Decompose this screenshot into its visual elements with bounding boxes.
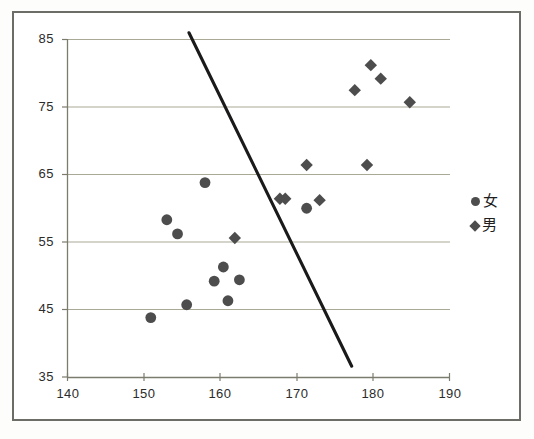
data-point-男-6 — [361, 159, 373, 171]
y-tick-label-65: 65 — [24, 166, 54, 181]
data-point-男-5 — [349, 84, 361, 96]
data-point-女-1 — [161, 214, 172, 225]
y-tick-label-85: 85 — [24, 31, 54, 46]
data-point-女-9 — [301, 203, 312, 214]
y-tick-label-35: 35 — [24, 369, 54, 384]
y-tick-label-55: 55 — [24, 234, 54, 249]
data-point-男-4 — [313, 194, 325, 206]
y-tick-label-45: 45 — [24, 301, 54, 316]
data-point-男-3 — [300, 159, 312, 171]
data-point-女-2 — [172, 229, 183, 240]
legend-item-female[interactable]: 女 — [471, 194, 498, 209]
data-point-男-8 — [375, 72, 387, 84]
data-markers — [145, 59, 416, 323]
trend-line — [189, 33, 352, 366]
x-tick-label-160: 160 — [200, 386, 240, 401]
scatter-plot-canvas — [0, 0, 534, 439]
x-tick-label-170: 170 — [277, 386, 317, 401]
x-tick-label-150: 150 — [124, 386, 164, 401]
data-point-女-0 — [145, 312, 156, 323]
data-point-女-8 — [234, 274, 245, 285]
data-point-女-4 — [200, 177, 211, 188]
data-point-女-5 — [209, 276, 220, 287]
data-point-女-7 — [223, 295, 234, 306]
x-tick-label-140: 140 — [48, 386, 88, 401]
legend-circle-marker-icon — [471, 197, 480, 206]
chart-figure: 85 75 65 55 45 35 140 150 160 170 180 19… — [0, 0, 534, 439]
y-tick-marks — [62, 40, 67, 378]
x-tick-label-180: 180 — [353, 386, 393, 401]
legend-label-female: 女 — [483, 194, 498, 209]
y-tick-label-75: 75 — [24, 99, 54, 114]
x-tick-label-190: 190 — [430, 386, 470, 401]
legend-diamond-marker-icon — [469, 220, 480, 231]
legend-label-male: 男 — [482, 218, 497, 233]
legend-item-male[interactable]: 男 — [471, 218, 497, 233]
data-point-男-7 — [365, 59, 377, 71]
data-point-女-6 — [218, 262, 229, 273]
axes — [67, 39, 450, 378]
data-point-女-3 — [181, 299, 192, 310]
